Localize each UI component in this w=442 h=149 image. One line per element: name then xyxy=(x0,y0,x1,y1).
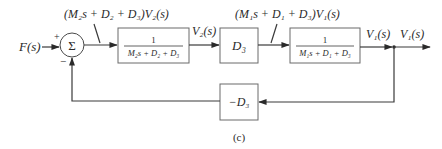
feedback-block: −D₃ xyxy=(220,84,258,120)
block2-label: D₃ xyxy=(231,38,246,53)
feedback-path-left xyxy=(72,58,220,101)
signal-v1-a: V₁(s) xyxy=(366,27,390,41)
block-1: 1 M₂s + D₂ + D₃ xyxy=(118,28,189,63)
feedback-block-label: −D₃ xyxy=(229,95,250,109)
block1-numerator: 1 xyxy=(151,35,156,45)
block3-denominator: M₁s + D₁ + D₃ xyxy=(298,48,351,58)
annotation-1: (M₂s + D₂ + D₃)V₂(s) xyxy=(64,7,169,21)
annotation-1-pointer xyxy=(94,24,100,43)
block1-denominator: M₂s + D₂ + D₃ xyxy=(127,48,180,58)
block3-numerator: 1 xyxy=(323,35,328,45)
summing-junction: Σ xyxy=(60,33,84,57)
signal-v1-b: V₁(s) xyxy=(400,27,424,41)
figure-caption: (c) xyxy=(233,131,246,144)
block-diagram: F(s) Σ + − (M₂s + D₂ + D₃)V₂(s) 1 M₂s + … xyxy=(0,0,442,149)
signal-v2: V₂(s) xyxy=(192,24,216,38)
block-2-d3: D₃ xyxy=(220,28,258,63)
input-label: F(s) xyxy=(18,39,41,54)
plus-sign: + xyxy=(54,31,60,42)
sigma-symbol: Σ xyxy=(68,38,76,53)
annotation-2: (M₁s + D₁ + D₃)V₁(s) xyxy=(235,7,340,21)
block-3: 1 M₁s + D₁ + D₃ xyxy=(290,28,360,63)
minus-sign: − xyxy=(60,55,66,67)
annotation-2-pointer xyxy=(271,24,277,43)
